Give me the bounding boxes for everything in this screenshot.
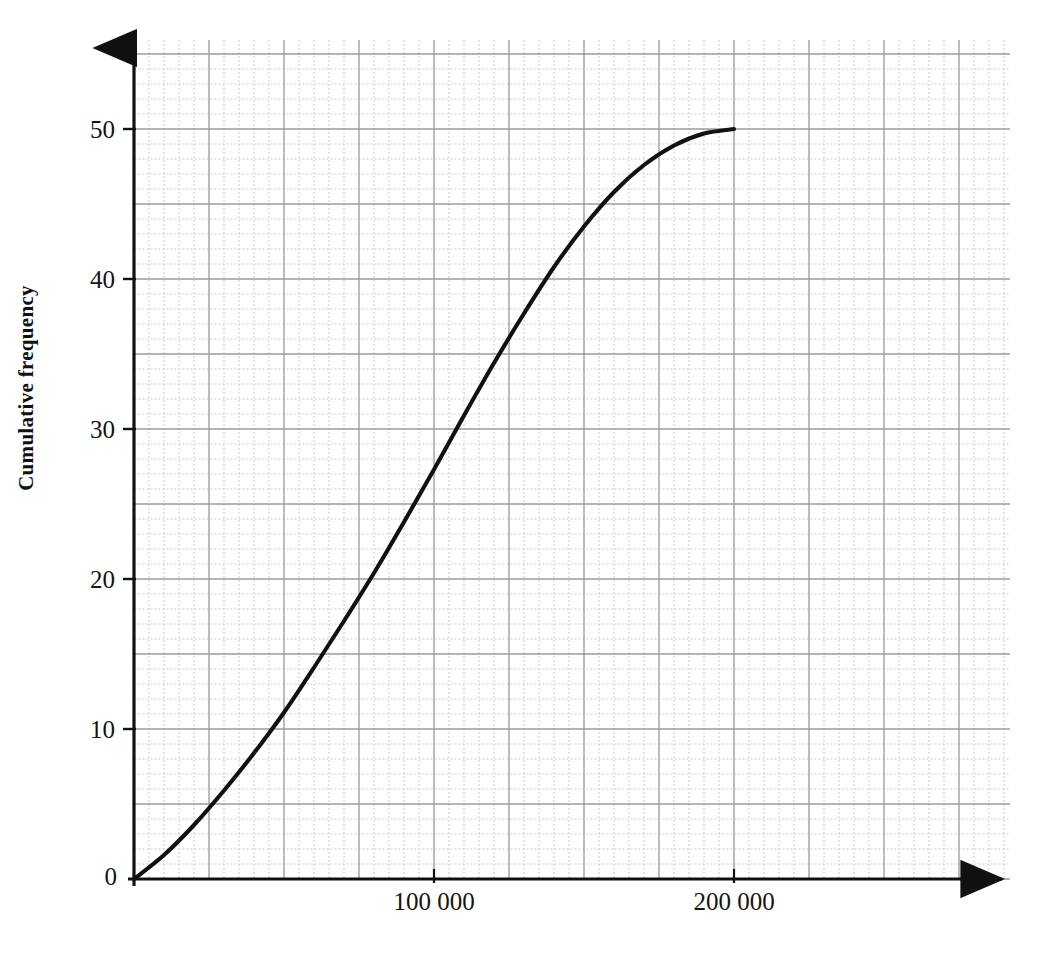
axis-ticks	[123, 129, 734, 883]
x-tick-label: 100 000	[393, 888, 474, 915]
y-tick-labels: 01020304050	[90, 116, 117, 890]
x-tick-label: 200 000	[693, 888, 774, 915]
y-tick-label: 50	[90, 116, 115, 143]
y-tick-label: 20	[90, 566, 115, 593]
x-tick-labels: 100 000200 000	[393, 888, 774, 915]
y-tick-label: 10	[90, 716, 115, 743]
y-axis-title: Cumulative frequency	[14, 178, 39, 598]
y-tick-label: 40	[90, 266, 115, 293]
y-tick-label: 0	[105, 863, 118, 890]
y-tick-label: 30	[90, 416, 115, 443]
minor-gridlines	[135, 40, 1011, 879]
cumulative-frequency-chart: 01020304050 100 000200 000	[0, 0, 1053, 953]
chart-canvas: 01020304050 100 000200 000 Cumulative fr…	[0, 0, 1053, 953]
